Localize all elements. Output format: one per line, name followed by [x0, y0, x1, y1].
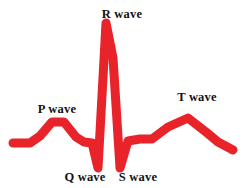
label-q-wave: Q wave [64, 171, 105, 184]
ecg-diagram: P wave R wave T wave Q wave S wave [0, 0, 245, 188]
label-r-wave: R wave [102, 8, 142, 21]
label-t-wave: T wave [177, 91, 217, 104]
label-p-wave: P wave [38, 103, 76, 116]
label-s-wave: S wave [119, 171, 157, 184]
